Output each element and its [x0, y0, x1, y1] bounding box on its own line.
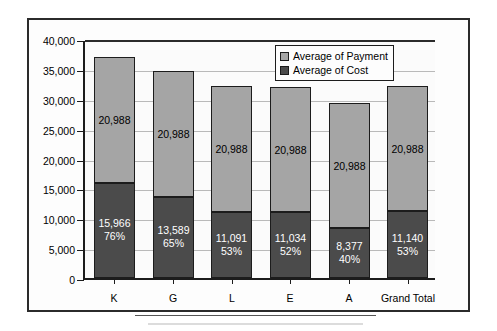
chart-legend: Average of Payment Average of Cost: [275, 45, 394, 81]
x-axis-tick: [173, 278, 174, 284]
y-axis-tick: [77, 131, 84, 132]
bar-segment-cost[interactable]: 11,14053%: [387, 211, 428, 278]
bar-value-label-cost: 15,966: [95, 217, 134, 230]
y-axis-tick-label: 35,000: [43, 66, 75, 76]
bar-group[interactable]: 20,98811,09153%: [211, 39, 252, 278]
bar-label-block-cost: 8,37740%: [330, 240, 369, 266]
bar-segment-cost[interactable]: 13,58965%: [153, 197, 194, 278]
bar-label-block-cost: 11,14053%: [388, 232, 427, 258]
y-axis-tick-label: 30,000: [43, 96, 75, 106]
x-axis-category-label: L: [229, 292, 235, 304]
legend-item-cost: Average of Cost: [280, 63, 388, 77]
bar-segment-payment[interactable]: 20,988: [387, 86, 428, 211]
bar-percent-label-cost: 52%: [271, 245, 310, 258]
gridline: [85, 190, 435, 191]
bar-value-label-payment: 20,988: [388, 143, 427, 156]
y-axis-tick-label: 20,000: [43, 156, 75, 166]
bar-segment-cost[interactable]: 8,37740%: [329, 228, 370, 278]
bar-value-label-cost: 11,140: [388, 232, 427, 245]
x-axis-tick: [290, 278, 291, 284]
x-axis-category-label: A: [345, 292, 352, 304]
bar-value-label-payment: 20,988: [212, 143, 251, 156]
bar-segment-payment[interactable]: 20,988: [211, 86, 252, 211]
y-axis-tick: [77, 71, 84, 72]
y-axis-tick-label: 15,000: [43, 185, 75, 195]
y-axis-tick-label: 40,000: [43, 36, 75, 46]
y-axis-tick: [77, 190, 84, 191]
bar-label-block-cost: 11,09153%: [212, 232, 251, 258]
gridline: [85, 40, 435, 42]
x-axis-tick: [349, 278, 350, 284]
x-axis-category-label: E: [286, 292, 293, 304]
y-axis-labels: 05,00010,00015,00020,00025,00030,00035,0…: [29, 41, 75, 280]
x-axis-category-label: K: [110, 292, 117, 304]
bar-percent-label-cost: 65%: [154, 237, 193, 250]
bar-value-label-cost: 8,377: [330, 240, 369, 253]
x-axis-tick: [408, 278, 409, 284]
legend-item-payment: Average of Payment: [280, 49, 388, 63]
bar-segment-payment[interactable]: 20,988: [270, 87, 311, 212]
bar-group[interactable]: 20,98813,58965%: [153, 39, 194, 278]
decorative-rule-secondary: [148, 323, 363, 325]
bar-label-block-cost: 13,58965%: [154, 224, 193, 250]
bar-segment-payment[interactable]: 20,988: [329, 103, 370, 228]
legend-swatch-payment-icon: [280, 52, 289, 61]
legend-swatch-cost-icon: [280, 66, 289, 75]
bar-value-label-payment: 20,988: [330, 160, 369, 173]
gridline: [85, 101, 435, 102]
bar-percent-label-cost: 76%: [95, 230, 134, 243]
y-axis-tick-label: 25,000: [43, 126, 75, 136]
bar-group[interactable]: 20,98815,96676%: [94, 39, 135, 278]
legend-label-payment: Average of Payment: [293, 50, 388, 62]
bar-percent-label-cost: 40%: [330, 253, 369, 266]
bar-percent-label-cost: 53%: [212, 245, 251, 258]
gridline: [85, 220, 435, 221]
y-axis-tick: [77, 280, 84, 281]
x-axis-tick: [232, 278, 233, 284]
bar-segment-payment[interactable]: 20,988: [94, 57, 135, 182]
bar-value-label-payment: 20,988: [154, 128, 193, 141]
x-axis-category-label: G: [169, 292, 177, 304]
gridline: [85, 250, 435, 251]
y-axis-tick: [77, 161, 84, 162]
x-axis-category-label: Grand Total: [381, 292, 435, 304]
bar-label-block-cost: 11,03452%: [271, 232, 310, 258]
y-axis-tick: [77, 41, 84, 42]
y-axis-tick-label: 10,000: [43, 215, 75, 225]
bar-value-label-payment: 20,988: [271, 144, 310, 157]
bar-segment-cost[interactable]: 15,96676%: [94, 183, 135, 278]
bar-label-block-cost: 15,96676%: [95, 217, 134, 243]
bar-value-label-cost: 13,589: [154, 224, 193, 237]
decorative-rule: [135, 315, 376, 316]
gridline: [85, 131, 435, 132]
bar-value-label-payment: 20,988: [95, 114, 134, 127]
bar-value-label-cost: 11,091: [212, 232, 251, 245]
bar-segment-cost[interactable]: 11,03452%: [270, 212, 311, 278]
bar-percent-label-cost: 53%: [388, 245, 427, 258]
x-axis-tick: [114, 278, 115, 284]
y-axis-tick: [77, 101, 84, 102]
bar-segment-cost[interactable]: 11,09153%: [211, 212, 252, 278]
bar-value-label-cost: 11,034: [271, 232, 310, 245]
y-axis-tick-label: 5,000: [49, 245, 75, 255]
y-axis-tick: [77, 250, 84, 251]
chart-frame: 05,00010,00015,00020,00025,00030,00035,0…: [27, 18, 470, 312]
y-axis-tick-label: 0: [69, 275, 75, 285]
legend-label-cost: Average of Cost: [293, 64, 368, 76]
gridline: [85, 161, 435, 162]
bar-segment-payment[interactable]: 20,988: [153, 71, 194, 196]
y-axis-tick: [77, 220, 84, 221]
